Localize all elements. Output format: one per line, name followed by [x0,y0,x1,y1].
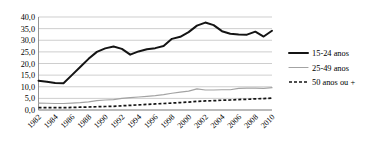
legend-label: 50 anos ou + [312,78,355,87]
x-tick-label: 2008 [242,113,260,131]
y-axis-tick-labels: 40,035,030,025,020,015,010,05,00,0 [21,13,35,115]
chart-legend: 15-24 anos25-49 anos50 anos ou + [289,49,355,87]
y-tick-label: 5,0 [25,94,35,103]
y-tick-label: 40,0 [21,13,35,22]
x-tick-label: 1998 [159,113,177,131]
x-tick-label: 2004 [209,113,227,131]
y-tick-label: 20,0 [21,60,35,69]
y-tick-label: 15,0 [21,71,35,80]
line-chart: 40,035,030,025,020,015,010,05,00,0 19821… [0,0,370,148]
x-tick-label: 2002 [192,113,210,131]
series-line-25-49-anos [39,88,273,104]
series-line-15-24-anos [39,23,273,84]
legend-label: 25-49 anos [312,64,349,73]
chart-canvas: 40,035,030,025,020,015,010,05,00,0 19821… [0,0,370,148]
x-tick-label: 2010 [259,113,277,131]
x-tick-label: 1988 [75,113,93,131]
y-tick-label: 0,0 [25,106,35,115]
y-tick-label: 10,0 [21,83,35,92]
x-axis-tick-labels: 1982198419861988199019921994199619982000… [25,113,276,131]
y-tick-label: 25,0 [21,48,35,57]
x-tick-label: 1982 [25,113,43,131]
y-tick-label: 35,0 [21,25,35,34]
x-tick-label: 1996 [142,113,160,131]
data-series [39,23,273,108]
x-tick-label: 1992 [109,113,127,131]
legend-label: 15-24 anos [312,49,349,58]
x-tick-label: 1990 [92,113,110,131]
y-tick-label: 30,0 [21,36,35,45]
x-tick-label: 1984 [42,113,60,131]
x-tick-label: 2000 [176,113,194,131]
x-tick-label: 2006 [226,113,244,131]
x-tick-label: 1994 [126,113,144,131]
x-tick-label: 1986 [59,113,77,131]
